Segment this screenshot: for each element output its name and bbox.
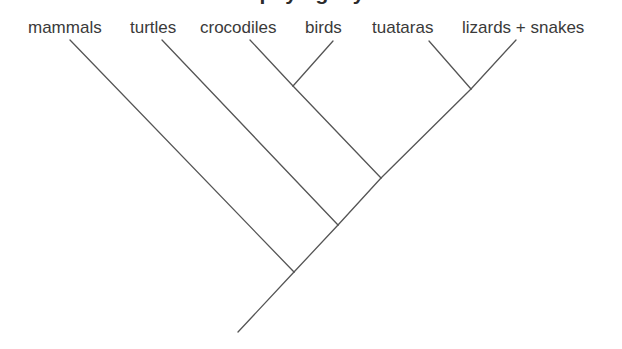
branch-crocodiles: [250, 40, 293, 86]
branch-birds: [293, 41, 333, 86]
branch-amniotes: [238, 272, 294, 332]
branch-lizards-snakes: [471, 40, 516, 89]
branch-reptiles: [294, 225, 338, 272]
branch-lepidosaurs: [381, 89, 471, 178]
cladogram-branches: [0, 0, 622, 349]
branch-turtles: [162, 40, 338, 225]
branch-archosaurs: [293, 86, 381, 178]
branch-tuataras: [429, 41, 471, 89]
phylogeny-diagram: phylogeny mammals turtles crocodiles bir…: [0, 0, 622, 349]
branch-diapsids: [338, 178, 381, 225]
branch-mammals: [70, 40, 294, 272]
